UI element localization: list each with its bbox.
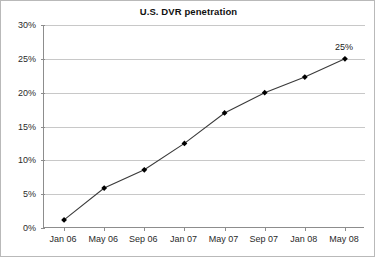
y-tick-label: 20% <box>0 88 36 98</box>
x-tick-label: Sep 06 <box>129 234 158 244</box>
plot-area <box>43 25 364 228</box>
x-tick-label: Jan 06 <box>50 234 77 244</box>
x-tick-label: May 08 <box>329 234 359 244</box>
y-tick-label: 0% <box>0 223 36 233</box>
chart-container: U.S. DVR penetration 0%5%10%15%20%25%30%… <box>0 0 375 257</box>
y-tick-mark <box>41 228 45 229</box>
data-point-marker <box>141 167 147 173</box>
data-point-marker <box>262 90 268 96</box>
series-markers <box>61 56 348 223</box>
x-tick-label: Sep 07 <box>249 234 278 244</box>
y-tick-label: 15% <box>0 122 36 132</box>
y-tick-label: 10% <box>0 155 36 165</box>
chart-title: U.S. DVR penetration <box>1 6 375 17</box>
x-tick-label: May 06 <box>88 234 118 244</box>
x-tick-label: Jan 08 <box>290 234 317 244</box>
x-tick-label: Jan 07 <box>170 234 197 244</box>
data-point-label: 25% <box>335 42 353 52</box>
y-tick-label: 5% <box>0 189 36 199</box>
data-point-marker <box>342 56 348 62</box>
data-series-line <box>44 25 365 228</box>
data-point-marker <box>302 74 308 80</box>
y-tick-label: 25% <box>0 54 36 64</box>
series-polyline <box>64 59 345 220</box>
x-tick-label: May 07 <box>209 234 239 244</box>
y-tick-label: 30% <box>0 20 36 30</box>
